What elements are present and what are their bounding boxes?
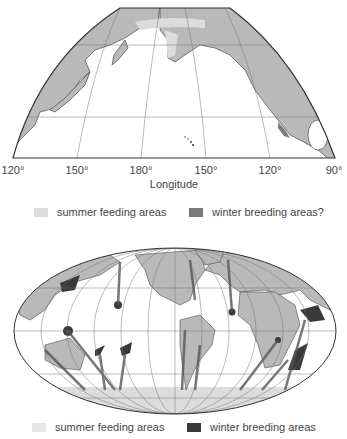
antarctica [0,398,347,420]
legend-label: summer feeding areas [55,421,164,433]
legend-winter-breeding: winter breeding areas [187,421,316,433]
legend-swatch-winter [187,423,201,432]
world-mollweide-map [0,0,347,439]
legend-label: winter breeding areas [210,421,316,433]
legend-summer-feeding: summer feeding areas [32,421,164,433]
legend-swatch-summer [32,423,46,432]
